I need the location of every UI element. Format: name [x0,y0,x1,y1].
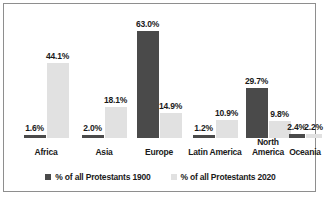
bar-group: 63.0%14.9% [137,26,182,138]
legend-label: % of all Protestants 2020 [181,172,276,182]
bar-rect [193,135,215,138]
bar-value-label: 18.1% [104,95,127,105]
category-label-oceania: Oceania [265,147,328,157]
legend-item-1900[interactable]: % of all Protestants 1900 [45,172,150,182]
bar-rect [137,31,159,138]
legend-swatch-icon [171,174,177,180]
bar-group: 2.0%18.1% [82,26,127,138]
bar-value-label: 44.1% [46,51,69,61]
bar-rect [82,135,104,138]
bar-rect [306,134,322,138]
bar-rect [289,134,305,138]
bar-rect [246,88,268,138]
bar-value-label: 2.0% [83,123,102,133]
bar-value-label: 10.9% [215,108,238,118]
bar-value-label: 1.6% [25,123,44,133]
bar-value-label: 2.4% [287,122,306,132]
bar-rect [160,113,182,138]
bar-value-label: 14.9% [159,101,182,111]
bar-value-label: 63.0% [136,19,159,29]
legend-swatch-icon [45,174,51,180]
bar-rect [216,120,238,138]
plot-area: 1.6%44.1%Africa2.0%18.1%Asia63.0%14.9%Eu… [4,4,317,193]
bar-value-label: 29.7% [245,76,268,86]
bar-group: 2.4%2.2% [289,26,322,138]
legend-item-2020[interactable]: % of all Protestants 2020 [171,172,276,182]
bar-rect [47,63,69,138]
bar-group: 29.7%9.8% [246,26,291,138]
legend-label: % of all Protestants 1900 [55,172,150,182]
bar-rect [105,107,127,138]
bar-group: 1.2%10.9% [193,26,238,138]
chart-legend: % of all Protestants 1900% of all Protes… [4,172,317,182]
bar-group: 1.6%44.1% [24,26,69,138]
bar-rect [24,135,46,138]
bar-value-label: 2.2% [304,122,323,132]
bar-value-label: 9.8% [270,109,289,119]
bar-value-label: 1.2% [194,123,213,133]
chart-frame: 1.6%44.1%Africa2.0%18.1%Asia63.0%14.9%Eu… [3,3,316,192]
